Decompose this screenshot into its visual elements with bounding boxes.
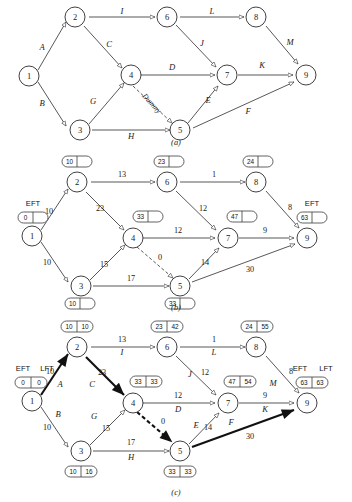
panel-c-network-diagram: 10 10 23 13 15 17 12 0 14 30 12 1 9 8 A …	[0, 313, 352, 502]
edge-6-7	[176, 25, 216, 67]
panel-b-edges	[41, 182, 299, 286]
label-edge-D: D	[168, 62, 176, 72]
duration-5-9: 30	[246, 265, 254, 274]
duration-3-4: 15	[102, 424, 110, 433]
panel-c-edges	[41, 347, 299, 451]
duration-4-5: 0	[161, 417, 165, 426]
node-7: 7	[218, 228, 238, 248]
node-2: 2	[65, 7, 85, 27]
panel-a-network-diagram: A B C I G H D Dummy E F J L K M 1 2 3 4 …	[0, 0, 352, 148]
node-1: 1	[22, 226, 42, 246]
label-edge-H: H	[127, 131, 135, 141]
svg-text:7: 7	[226, 398, 230, 408]
label-edge-A: A	[38, 42, 45, 52]
label-edge-M: M	[285, 37, 294, 47]
panel-a-edges	[38, 17, 298, 130]
svg-text:9: 9	[304, 70, 308, 80]
eft-pill-node-4: 33	[133, 211, 163, 222]
svg-text:33: 33	[184, 468, 192, 475]
label-edge-B: B	[39, 98, 45, 108]
panel-c-caption: (c)	[171, 488, 181, 497]
eft-lft-pill-node-1: 0 0	[15, 377, 47, 388]
node-9: 9	[297, 228, 317, 248]
edge-6-7	[176, 356, 216, 395]
svg-text:23: 23	[155, 323, 163, 330]
edge-2-4	[84, 26, 122, 68]
svg-text:63: 63	[316, 379, 324, 386]
svg-text:7: 7	[226, 233, 230, 243]
duration-2-4: 23	[96, 204, 104, 213]
svg-text:47: 47	[231, 213, 239, 220]
label-edge-G: G	[91, 411, 98, 421]
label-edge-E: E	[192, 420, 199, 430]
duration-4-7: 12	[174, 391, 182, 400]
node-9: 9	[296, 65, 316, 85]
node-1: 1	[22, 391, 42, 411]
svg-text:10: 10	[66, 158, 74, 165]
duration-8-9: 8	[288, 203, 292, 212]
header-lft-right: LFT	[319, 364, 333, 373]
label-edge-B: B	[55, 409, 61, 419]
edge-5-7	[188, 86, 218, 123]
duration-4-5: 0	[158, 253, 162, 262]
eft-lft-pill-node-6: 23 42	[151, 321, 183, 332]
label-edge-K: K	[261, 404, 269, 414]
svg-text:55: 55	[261, 323, 269, 330]
node-5: 5	[170, 276, 190, 296]
duration-5-9: 30	[246, 432, 254, 441]
node-8: 8	[246, 172, 266, 192]
node-5: 5	[170, 441, 190, 461]
svg-text:3: 3	[79, 281, 83, 291]
edge-4-5-dummy	[137, 247, 173, 278]
label-edge-M: M	[268, 378, 277, 388]
node-3: 3	[70, 120, 90, 140]
label-edge-I: I	[120, 347, 125, 357]
node-2: 2	[67, 337, 87, 357]
svg-text:1: 1	[27, 71, 31, 81]
node-4: 4	[123, 393, 143, 413]
label-edge-F: F	[227, 417, 234, 427]
duration-6-8: 1	[212, 335, 216, 344]
svg-text:0: 0	[37, 379, 41, 386]
svg-text:2: 2	[73, 12, 77, 22]
eft-pill-node-6: 23	[154, 156, 184, 167]
header-eft-right: EFT	[293, 364, 308, 373]
header-lft-left: LFT	[40, 364, 54, 373]
eft-pill-node-9: 63	[297, 212, 327, 223]
label-edge-F: F	[244, 106, 251, 116]
edge-6-7	[176, 191, 216, 230]
node-8: 8	[246, 7, 266, 27]
edge-4-5-dummy-critical	[137, 412, 172, 442]
node-1: 1	[19, 66, 39, 86]
svg-text:2: 2	[75, 177, 79, 187]
svg-text:10: 10	[81, 323, 89, 330]
label-edge-C: C	[89, 379, 95, 389]
duration-6-7: 12	[201, 368, 209, 377]
svg-text:5: 5	[178, 446, 182, 456]
svg-text:8: 8	[254, 342, 258, 352]
label-edge-H: H	[127, 452, 135, 462]
node-3: 3	[71, 276, 91, 296]
svg-text:3: 3	[79, 446, 83, 456]
svg-text:5: 5	[178, 281, 182, 291]
svg-text:1: 1	[30, 396, 34, 406]
svg-text:5: 5	[178, 125, 182, 135]
eft-lft-pill-node-8: 24 55	[241, 321, 273, 332]
svg-text:1: 1	[30, 231, 34, 241]
edge-5-9	[193, 82, 294, 128]
node-6: 6	[157, 172, 177, 192]
svg-text:8: 8	[254, 177, 258, 187]
label-edge-I: I	[120, 6, 125, 16]
node-9: 9	[297, 393, 317, 413]
svg-text:42: 42	[171, 323, 179, 330]
svg-text:33: 33	[137, 213, 145, 220]
node-4: 4	[121, 65, 141, 85]
node-6: 6	[157, 7, 177, 27]
label-edge-Dummy: Dummy	[140, 91, 164, 116]
node-2: 2	[67, 172, 87, 192]
eft-pill-node-7: 47	[227, 211, 257, 222]
label-edge-K: K	[258, 60, 266, 70]
svg-text:6: 6	[165, 342, 169, 352]
svg-text:10: 10	[69, 300, 77, 307]
eft-lft-pill-node-3: 10 16	[65, 466, 97, 477]
